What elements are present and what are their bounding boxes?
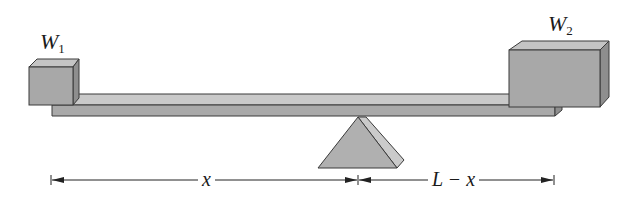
beam bbox=[52, 94, 562, 116]
beam-front-face bbox=[52, 105, 555, 116]
weight-block-w1 bbox=[29, 59, 79, 105]
w2-subscript: 2 bbox=[566, 23, 573, 38]
seesaw-diagram bbox=[0, 0, 642, 198]
w1-top-face bbox=[29, 59, 79, 67]
w1-side-face bbox=[73, 59, 79, 105]
fulcrum bbox=[318, 117, 404, 168]
w1-front-face bbox=[29, 67, 73, 105]
w2-top-face bbox=[509, 41, 609, 50]
w2-symbol: W bbox=[548, 11, 566, 36]
w2-side-face bbox=[600, 41, 609, 107]
arrowhead-lx-left bbox=[359, 177, 371, 183]
beam-top-face bbox=[52, 94, 521, 105]
w1-symbol: W bbox=[40, 29, 58, 54]
arrowhead-lx-right bbox=[541, 177, 553, 183]
weight-block-w2 bbox=[509, 41, 609, 107]
label-w1: W1 bbox=[40, 31, 65, 55]
label-distance-l-minus-x: L − x bbox=[428, 169, 479, 189]
label-w2: W2 bbox=[548, 13, 573, 37]
arrowhead-x-right bbox=[345, 177, 357, 183]
w1-subscript: 1 bbox=[58, 41, 65, 56]
w2-front-face bbox=[509, 50, 600, 107]
label-distance-x: x bbox=[198, 169, 215, 189]
arrowhead-x-left bbox=[52, 177, 64, 183]
